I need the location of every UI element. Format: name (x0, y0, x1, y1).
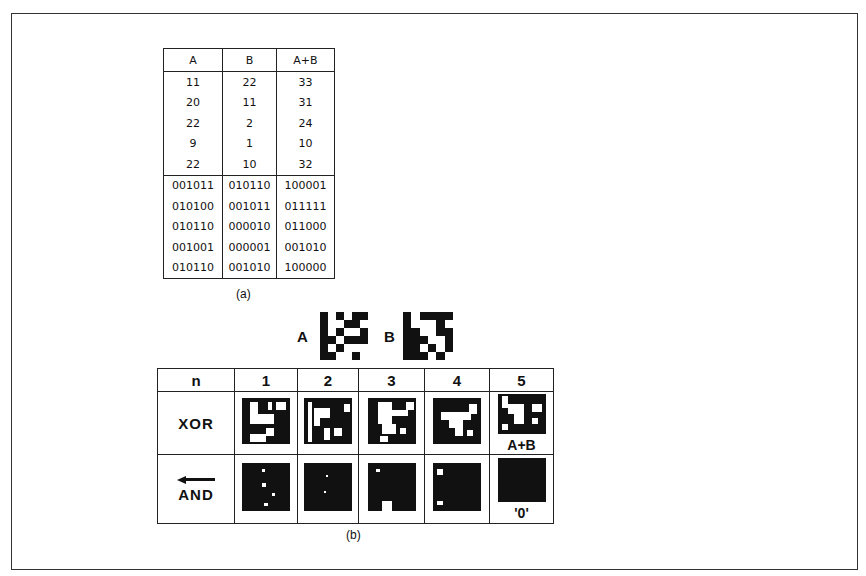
pattern-pixel (344, 344, 352, 352)
pattern-pixel (445, 328, 453, 336)
pattern-pixel (320, 320, 328, 328)
pattern-pixel (436, 312, 444, 320)
pattern-pixel (360, 320, 368, 328)
pattern-pixel (352, 336, 360, 344)
table-row: 001011010110100001 (164, 175, 335, 196)
caption-b: (b) (346, 528, 361, 542)
header-col: 3 (359, 369, 425, 392)
cell: 001010 (277, 237, 335, 258)
cell: 011111 (277, 196, 335, 217)
pattern-pixel (411, 328, 419, 336)
cell: 20 (164, 93, 223, 114)
cell: 2 (223, 113, 277, 134)
cell: 001001 (164, 237, 223, 258)
pattern-pixel (445, 312, 453, 320)
cell: 001010 (223, 258, 277, 279)
cell: 32 (277, 154, 335, 175)
pattern-pixel (352, 328, 360, 336)
and-image-3 (368, 463, 416, 511)
pattern-pixel (360, 352, 368, 360)
pattern-pixel (328, 352, 336, 360)
table-row: 22224 (164, 113, 335, 134)
cell: 010110 (223, 175, 277, 196)
cell: 010110 (164, 217, 223, 238)
pattern-pixel (403, 328, 411, 336)
pattern-pixel (328, 320, 336, 328)
pattern-pixel (328, 344, 336, 352)
pattern-pixel (428, 328, 436, 336)
header-n: n (158, 369, 235, 392)
header-col: 5 (490, 369, 554, 392)
sum-note: A+B (490, 439, 553, 452)
pattern-pixel (336, 336, 344, 344)
xor-cell-3 (359, 392, 425, 455)
pattern-pixel (428, 320, 436, 328)
pattern-pixel (336, 344, 344, 352)
pattern-pixel (336, 320, 344, 328)
xor-cell-4 (425, 392, 490, 455)
pattern-pixel (436, 328, 444, 336)
and-image-5 (498, 458, 546, 502)
pattern-pixel (428, 352, 436, 360)
pattern-pixel (320, 344, 328, 352)
pattern-pixel (320, 336, 328, 344)
pattern-pixel (411, 344, 419, 352)
xor-cell-1 (235, 392, 298, 455)
pattern-pixel (403, 312, 411, 320)
cell: 100001 (277, 175, 335, 196)
pattern-pixel (428, 344, 436, 352)
pattern-pixel (436, 352, 444, 360)
pattern-pixel (328, 328, 336, 336)
pattern-pixel (428, 336, 436, 344)
cell: 010100 (164, 196, 223, 217)
header-col: 2 (298, 369, 359, 392)
table-row: 010110001010100000 (164, 258, 335, 279)
pattern-pixel (420, 312, 428, 320)
pattern-pixel (344, 320, 352, 328)
addition-table: A B A+B 112233 201131 22224 9110 221032 … (163, 48, 335, 279)
pattern-pixel (411, 336, 419, 344)
cell: 22 (164, 113, 223, 134)
pattern-pixel (436, 344, 444, 352)
xor-cell-2 (298, 392, 359, 455)
and-cell-3 (359, 455, 425, 524)
pattern-pixel (403, 320, 411, 328)
cell: 10 (223, 154, 277, 175)
pattern-pixel (352, 312, 360, 320)
and-cell-5: '0' (490, 455, 554, 524)
pattern-pixel (336, 328, 344, 336)
pattern-pixel (436, 336, 444, 344)
input-a-label: A (297, 328, 308, 345)
and-image-1 (242, 463, 290, 511)
header-sum: A+B (277, 49, 335, 72)
pattern-pixel (320, 312, 328, 320)
pattern-pixel (411, 320, 419, 328)
pattern-pixel (403, 352, 411, 360)
pattern-pixel (344, 328, 352, 336)
cell: 100000 (277, 258, 335, 279)
and-image-4 (433, 463, 481, 511)
cell: 000010 (223, 217, 277, 238)
pattern-pixel (344, 312, 352, 320)
pattern-pixel (360, 344, 368, 352)
pattern-pixel (336, 352, 344, 360)
table-row: 221032 (164, 154, 335, 175)
pattern-pixel (445, 344, 453, 352)
header-col: 4 (425, 369, 490, 392)
and-cell-1 (235, 455, 298, 524)
input-a-pattern (320, 312, 368, 360)
table-row: 201131 (164, 93, 335, 114)
and-cell-4 (425, 455, 490, 524)
xor-cell-5: A+B (490, 392, 554, 455)
pattern-pixel (344, 336, 352, 344)
pattern-pixel (344, 352, 352, 360)
cell: 001011 (223, 196, 277, 217)
pattern-pixel (445, 320, 453, 328)
input-b-label: B (384, 328, 395, 345)
pattern-pixel (445, 352, 453, 360)
header-col: 1 (235, 369, 298, 392)
pattern-pixel (420, 352, 428, 360)
pattern-pixel (352, 344, 360, 352)
zero-note: '0' (490, 507, 553, 520)
cell: 11 (223, 93, 277, 114)
